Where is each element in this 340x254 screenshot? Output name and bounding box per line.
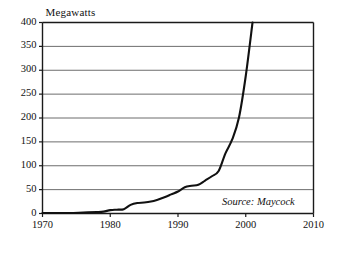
y-tick-label: 100 xyxy=(21,159,37,170)
y-tick-label: 400 xyxy=(21,16,37,27)
y-tick-label: 350 xyxy=(21,39,37,50)
y-tick-label: 300 xyxy=(21,63,37,74)
source-annotation: Source: Maycock xyxy=(222,196,295,207)
x-tick-label: 1970 xyxy=(23,219,63,230)
chart-figure: Megawatts Source: Maycock 05010015020025… xyxy=(0,0,340,254)
x-tick-label: 1980 xyxy=(90,219,130,230)
y-tick-label: 150 xyxy=(21,135,37,146)
x-tick-label: 1990 xyxy=(158,219,198,230)
y-tick-label: 0 xyxy=(31,207,36,218)
tick-marks-group xyxy=(39,23,314,218)
chart-canvas xyxy=(0,0,340,254)
y-axis-title: Megawatts xyxy=(46,6,96,18)
y-tick-label: 200 xyxy=(21,111,37,122)
gridlines-group xyxy=(43,46,314,189)
x-tick-label: 2010 xyxy=(294,219,334,230)
y-tick-label: 50 xyxy=(26,183,37,194)
x-tick-label: 2000 xyxy=(226,219,266,230)
y-tick-label: 250 xyxy=(21,87,37,98)
